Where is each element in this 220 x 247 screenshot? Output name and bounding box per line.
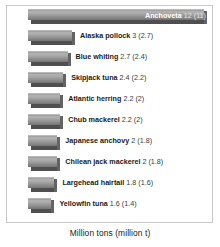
bar-label: Atlantic herring 2.2 (2) (64, 93, 144, 105)
bar-row: Atlantic herring 2.2 (2) (7, 90, 212, 111)
bar-label: Chub mackerel 2.2 (2) (64, 114, 142, 126)
bar-fill (28, 72, 63, 83)
bar-label: Chilean jack mackerel 2 (1.8) (61, 156, 163, 168)
bar-fill (28, 198, 51, 209)
bar-label: Japanese anchovy 2 (1.8) (61, 135, 152, 147)
species-value: 2.2 (122, 115, 132, 124)
bar-label: Anchoveta 12 (11) (145, 10, 206, 22)
species-value: 2.7 (120, 52, 130, 61)
species-secondary-value: (2.7) (138, 31, 153, 40)
bar-label: Blue whiting 2.7 (2.4) (72, 51, 148, 63)
bar[interactable] (28, 30, 72, 45)
species-name: Yellowfin tuna (59, 199, 107, 208)
species-value: 1.6 (110, 199, 120, 208)
species-value: 2 (131, 136, 135, 145)
bar[interactable] (28, 135, 57, 150)
species-name: Blue whiting (76, 52, 119, 61)
bar-row: Anchoveta 12 (11) (7, 6, 212, 27)
species-name: Chub mackerel (68, 115, 120, 124)
bar-row: Skipjack tuna 2.4 (2.2) (7, 69, 212, 90)
bar-end-cap (51, 200, 54, 213)
x-axis-caption: Million tons (million t) (0, 228, 220, 238)
bar-label: Skipjack tuna 2.4 (2.2) (67, 72, 146, 84)
species-value: 1.8 (126, 178, 136, 187)
bar-label: Largehead hairtail 1.8 (1.6) (58, 177, 153, 189)
bar-fill (28, 93, 60, 104)
species-value: 2.4 (120, 73, 130, 82)
bar-shadow (31, 125, 63, 129)
bar[interactable] (28, 93, 60, 108)
bar-end-cap (60, 95, 63, 108)
bar-row: Alaska pollock 3 (2.7) (7, 27, 212, 48)
bar-end-cap (60, 116, 63, 129)
species-secondary-value: (2) (135, 94, 144, 103)
species-secondary-value: (1.6) (138, 178, 153, 187)
species-secondary-value: (1.4) (122, 199, 137, 208)
fish-catch-bar-chart: Anchoveta 12 (11)Alaska pollock 3 (2.7)B… (0, 0, 220, 247)
bar-row: Blue whiting 2.7 (2.4) (7, 48, 212, 69)
bar-label: Alaska pollock 3 (2.7) (76, 30, 153, 42)
bar-end-cap (72, 32, 75, 45)
bar[interactable] (28, 114, 60, 129)
bar-row: Japanese anchovy 2 (1.8) (7, 132, 212, 153)
bar-row: Largehead hairtail 1.8 (1.6) (7, 174, 212, 195)
species-name: Anchoveta (145, 11, 182, 20)
species-value: 3 (132, 31, 136, 40)
bar[interactable] (28, 177, 54, 192)
bar-row: Chub mackerel 2.2 (2) (7, 111, 212, 132)
species-name: Atlantic herring (68, 94, 121, 103)
bar-fill (28, 177, 54, 188)
bar-shadow (31, 62, 71, 66)
bar-end-cap (63, 74, 66, 87)
bar-shadow (31, 83, 66, 87)
bar-shadow (31, 167, 60, 171)
species-name: Chilean jack mackerel (65, 157, 140, 166)
species-secondary-value: (1.8) (137, 136, 152, 145)
species-secondary-value: (2) (134, 115, 143, 124)
bar-fill (28, 156, 57, 167)
bar-fill (28, 114, 60, 125)
species-secondary-value: (2.2) (132, 73, 147, 82)
bar-fill (28, 51, 68, 62)
bar-row: Yellowfin tuna 1.6 (1.4) (7, 195, 212, 216)
bar-end-cap (57, 158, 60, 171)
bar[interactable] (28, 72, 63, 87)
species-secondary-value: (2.4) (132, 52, 147, 61)
bar-fill (28, 135, 57, 146)
species-value: 2 (142, 157, 146, 166)
species-name: Largehead hairtail (62, 178, 124, 187)
bar[interactable] (28, 198, 51, 213)
bar[interactable] (28, 156, 57, 171)
bar-shadow (31, 146, 60, 150)
bar[interactable] (28, 51, 68, 66)
bar-end-cap (57, 137, 60, 150)
bar-label: Yellowfin tuna 1.6 (1.4) (55, 198, 136, 210)
plot-area: Anchoveta 12 (11)Alaska pollock 3 (2.7)B… (6, 5, 213, 223)
species-secondary-value: (11) (194, 11, 206, 20)
species-value: 12 (184, 11, 192, 20)
bar-end-cap (68, 53, 71, 66)
bar-shadow (31, 104, 63, 108)
species-value: 2.2 (123, 94, 133, 103)
bar-shadow (31, 41, 75, 45)
species-name: Alaska pollock (80, 31, 130, 40)
bar-end-cap (54, 179, 57, 192)
bar-row: Chilean jack mackerel 2 (1.8) (7, 153, 212, 174)
species-secondary-value: (1.8) (148, 157, 163, 166)
species-name: Skipjack tuna (71, 73, 117, 82)
bar-fill (28, 30, 72, 41)
species-name: Japanese anchovy (65, 136, 129, 145)
